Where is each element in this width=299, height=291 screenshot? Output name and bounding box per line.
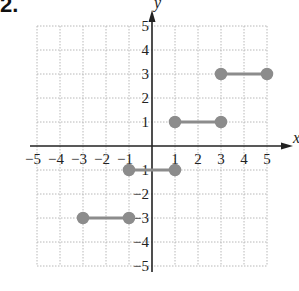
y-tick-label: −4 <box>133 234 149 250</box>
x-axis-label: x <box>292 129 299 146</box>
closed-dot-icon <box>216 117 227 128</box>
closed-dot-icon <box>170 117 181 128</box>
closed-dot-icon <box>124 165 135 176</box>
x-tick-label: −3 <box>71 151 87 167</box>
x-tick-label: 5 <box>263 151 271 167</box>
x-tick-label: −4 <box>48 151 64 167</box>
step-function-graph: xy −5−4−3−2−11234554321−1−2−3−4−5 <box>0 0 299 291</box>
y-tick-label: 5 <box>142 18 150 34</box>
closed-dot-icon <box>78 213 89 224</box>
y-axis-label: y <box>152 0 162 12</box>
closed-dot-icon <box>262 69 273 80</box>
y-tick-label: −5 <box>133 258 149 274</box>
y-tick-label: −3 <box>133 210 149 226</box>
y-tick-label: 3 <box>142 66 150 82</box>
y-tick-label: 2 <box>142 90 150 106</box>
y-tick-label: 4 <box>142 42 150 58</box>
closed-dot-icon <box>216 69 227 80</box>
closed-dot-icon <box>124 213 135 224</box>
y-tick-label: −2 <box>133 186 149 202</box>
x-tick-label: −2 <box>94 151 110 167</box>
x-tick-label: −5 <box>25 151 41 167</box>
x-axis-arrow-icon <box>281 143 293 150</box>
x-tick-label: 2 <box>194 151 202 167</box>
closed-dot-icon <box>170 165 181 176</box>
y-tick-label: 1 <box>142 114 150 130</box>
x-tick-label: 4 <box>240 151 248 167</box>
y-axis-arrow-icon <box>149 10 156 22</box>
axes: xy <box>30 0 299 272</box>
x-tick-label: 3 <box>217 151 225 167</box>
